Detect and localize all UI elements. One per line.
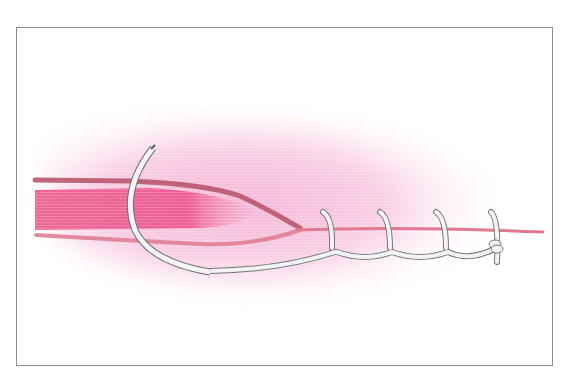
suture-illustration	[0, 0, 571, 371]
